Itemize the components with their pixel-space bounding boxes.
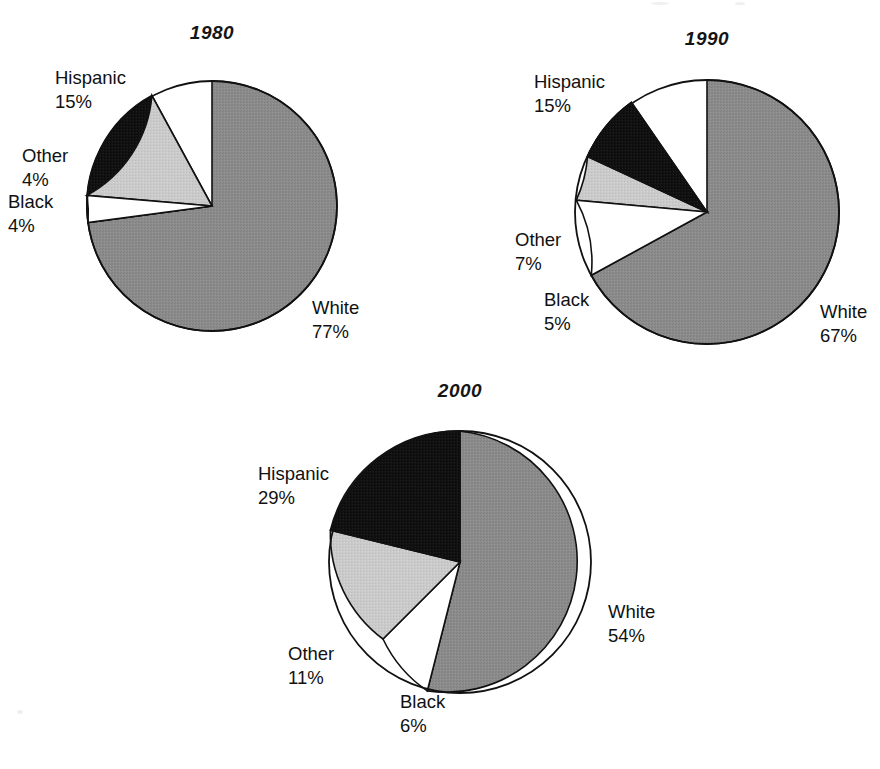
pie-2000-label-hispanic-name: Hispanic [258, 463, 329, 484]
pie-1980-label-black-name: Black [8, 191, 53, 212]
pie-2000-label-black-name: Black [400, 691, 445, 712]
pie-1990-label-black-name: Black [544, 289, 589, 310]
pie-1990-label-hispanic-name: Hispanic [534, 71, 605, 92]
pie-1990-label-other-pct: 7% [515, 252, 561, 276]
pie-2000-label-black-pct: 6% [400, 714, 445, 738]
pie-1990-label-white-name: White [820, 301, 867, 322]
pie-1980-label-other-pct: 4% [22, 168, 68, 192]
pie-1980-label-hispanic: Hispanic 15% [55, 66, 126, 113]
scan-artifact [651, 2, 669, 5]
pie-1980-label-black-pct: 4% [8, 214, 53, 238]
pie-1990-label-black-pct: 5% [544, 312, 589, 336]
pie-1990-label-white-pct: 67% [820, 324, 867, 348]
pie-1990 [575, 80, 839, 344]
scan-artifact [17, 710, 23, 714]
pie-2000-label-black: Black 6% [400, 690, 445, 737]
pie-1980-label-other: Other 4% [22, 144, 68, 191]
pie-2000-label-hispanic: Hispanic 29% [258, 462, 329, 509]
pie-1980-label-white: White 77% [312, 296, 359, 343]
pie-2000-label-white: White 54% [608, 600, 655, 647]
pie-2000-label-other-name: Other [288, 643, 334, 664]
pie-1980-label-hispanic-name: Hispanic [55, 67, 126, 88]
pie-1980-label-black: Black 4% [8, 190, 53, 237]
pie-1980-label-other-name: Other [22, 145, 68, 166]
pie-1980-label-hispanic-pct: 15% [55, 90, 126, 114]
pie-2000-label-white-pct: 54% [608, 624, 655, 648]
pie-title-1990: 1990 [647, 28, 767, 50]
pie-title-1980: 1980 [152, 22, 272, 44]
scan-artifact [735, 2, 745, 5]
pie-1990-label-other: Other 7% [515, 228, 561, 275]
pie-title-2000: 2000 [400, 380, 520, 402]
figure-canvas: 1980 Hispanic 15% Other 4% Black 4% Whit… [0, 0, 880, 769]
pie-2000-label-other-pct: 11% [288, 666, 334, 690]
pie-2000-label-hispanic-pct: 29% [258, 486, 329, 510]
pie-1980 [87, 81, 337, 331]
pie-2000 [329, 431, 591, 693]
pie-1990-label-other-name: Other [515, 229, 561, 250]
pie-2000-label-white-name: White [608, 601, 655, 622]
pie-1990-label-black: Black 5% [544, 288, 589, 335]
pie-1980-label-white-pct: 77% [312, 320, 359, 344]
pie-1990-label-hispanic-pct: 15% [534, 94, 605, 118]
pie-1990-label-hispanic: Hispanic 15% [534, 70, 605, 117]
pie-1980-label-white-name: White [312, 297, 359, 318]
pie-2000-label-other: Other 11% [288, 642, 334, 689]
pie-1990-label-white: White 67% [820, 300, 867, 347]
